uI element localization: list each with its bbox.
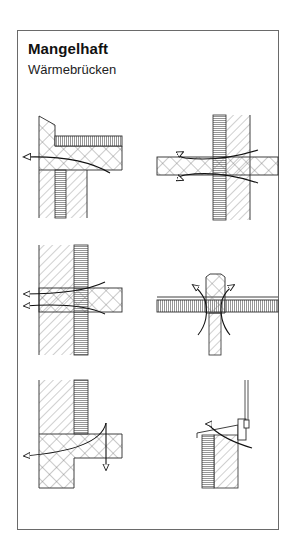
diagram-2 (157, 115, 278, 220)
diagram-6 (197, 380, 252, 488)
diagram-5 (24, 380, 122, 488)
diagram-4 (157, 274, 278, 355)
thermal-bridge-diagrams (0, 0, 294, 551)
diagram-1 (24, 116, 122, 218)
diagram-3 (24, 245, 122, 355)
